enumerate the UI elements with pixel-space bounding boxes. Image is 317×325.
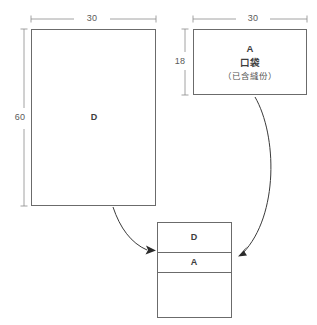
pattern-diagram: 30 60 D 30 18 A 口袋 （已含縫份） D A: [0, 0, 317, 325]
dimension-a-width-label: 30: [245, 13, 261, 23]
dimension-d-height-label: 60: [13, 112, 27, 122]
arrow-d-to-assembly: [113, 207, 156, 255]
dimension-a-height-label: 18: [173, 56, 187, 66]
piece-a-label: A: [193, 42, 307, 56]
dimension-d-width-label: 30: [84, 13, 100, 23]
piece-a-name: 口袋: [193, 56, 307, 70]
piece-d-label: D: [83, 112, 105, 122]
piece-a-text-block: A 口袋 （已含縫份）: [193, 42, 307, 82]
assembly-band-d-label: D: [157, 232, 231, 242]
assembly-band-a-label: A: [157, 257, 231, 267]
piece-a-note: （已含縫份）: [193, 70, 307, 82]
arrow-a-to-assembly: [238, 97, 271, 257]
